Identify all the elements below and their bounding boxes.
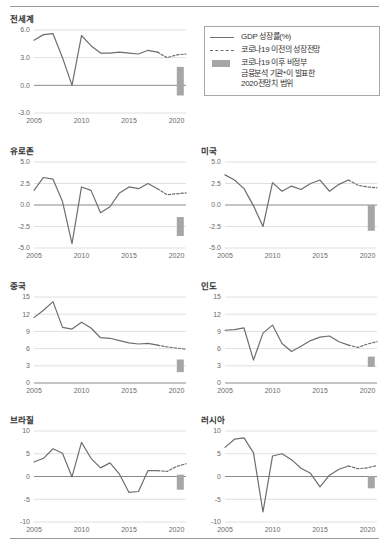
x-axis-tick-label: 2010 bbox=[74, 526, 90, 533]
y-axis-tick-label: 0 bbox=[26, 473, 30, 480]
forecast-line bbox=[158, 52, 187, 58]
y-axis-tick-label: 3 bbox=[26, 362, 30, 369]
chart-title: 인도 bbox=[201, 281, 381, 291]
x-axis-tick-label: 2015 bbox=[312, 387, 328, 394]
chart-panel-world: 전세계 6.03.00.0-3.02005201020152020 bbox=[8, 14, 190, 126]
x-axis-tick-label: 2005 bbox=[217, 526, 233, 533]
gdp-growth-line bbox=[225, 325, 349, 360]
x-axis-tick-label: 2020 bbox=[360, 252, 376, 259]
x-axis-tick-label: 2020 bbox=[169, 526, 185, 533]
forecast-range-bar bbox=[368, 476, 375, 488]
chart-svg: 151296302005201020152020 bbox=[199, 293, 381, 396]
y-axis-tick-label: 15 bbox=[22, 293, 30, 300]
x-axis-tick-label: 2005 bbox=[26, 117, 42, 124]
forecast-line bbox=[349, 180, 378, 188]
y-axis-tick-label: 3.0 bbox=[20, 54, 30, 61]
chart-panel-china: 중국 151296302005201020152020 bbox=[8, 281, 190, 396]
x-axis-tick-label: 2020 bbox=[360, 387, 376, 394]
plot-area: 151296302005201020152020 bbox=[8, 293, 190, 396]
legend-item-forecast-range: 코로나19 이후 비정부 금융분석 기관*이 발표한 2020전망치 범위 bbox=[210, 58, 373, 90]
y-axis-tick-label: 3 bbox=[217, 362, 221, 369]
legend-label: GDP 성장률(%) bbox=[241, 32, 291, 43]
y-axis-tick-label: 5.0 bbox=[211, 158, 221, 165]
top-divider-rule bbox=[10, 6, 379, 7]
gdp-growth-line bbox=[34, 177, 158, 243]
gdp-growth-line bbox=[34, 302, 158, 346]
y-axis-tick-label: 5.0 bbox=[20, 158, 30, 165]
forecast-range-bar bbox=[177, 67, 184, 96]
chart-title: 러시아 bbox=[201, 415, 381, 425]
y-axis-tick-label: 12 bbox=[22, 311, 30, 318]
dashed-line-icon bbox=[210, 45, 236, 56]
chart-title: 유로존 bbox=[10, 146, 190, 156]
y-axis-tick-label: -10 bbox=[20, 518, 30, 525]
forecast-range-bar bbox=[177, 475, 184, 490]
solid-line-icon bbox=[210, 32, 236, 43]
legend-item-pre-covid-forecast: 코로나19 이전의 성장전망 bbox=[210, 45, 373, 56]
x-axis-tick-label: 2020 bbox=[169, 117, 185, 124]
y-axis-tick-label: -5 bbox=[215, 496, 221, 503]
y-axis-tick-label: -5.0 bbox=[209, 244, 221, 251]
x-axis-tick-label: 2005 bbox=[217, 387, 233, 394]
chart-svg: 1050-5-102005201020152020 bbox=[199, 427, 381, 535]
y-axis-tick-label: 10 bbox=[213, 427, 221, 434]
y-axis-tick-label: 9 bbox=[217, 328, 221, 335]
y-axis-tick-label: 12 bbox=[213, 311, 221, 318]
bottom-divider-rule bbox=[10, 538, 379, 539]
legend-item-gdp-growth: GDP 성장률(%) bbox=[210, 32, 373, 43]
y-axis-tick-label: 0 bbox=[217, 473, 221, 480]
x-axis-tick-label: 2020 bbox=[169, 387, 185, 394]
gdp-growth-line bbox=[225, 438, 349, 512]
gdp-growth-line bbox=[225, 175, 349, 227]
x-axis-tick-label: 2005 bbox=[26, 387, 42, 394]
y-axis-tick-label: 0 bbox=[217, 379, 221, 386]
plot-area: 151296302005201020152020 bbox=[199, 293, 381, 396]
y-axis-tick-label: 6 bbox=[217, 345, 221, 352]
y-axis-tick-label: -5 bbox=[24, 496, 30, 503]
legend-label: 코로나19 이후 비정부 금융분석 기관*이 발표한 2020전망치 범위 bbox=[241, 58, 315, 90]
y-axis-tick-label: 0.0 bbox=[20, 201, 30, 208]
x-axis-tick-label: 2015 bbox=[121, 117, 137, 124]
forecast-range-bar bbox=[368, 205, 375, 231]
x-axis-tick-label: 2010 bbox=[265, 387, 281, 394]
x-axis-tick-label: 2010 bbox=[74, 117, 90, 124]
chart-legend: GDP 성장률(%) 코로나19 이전의 성장전망 코로나19 이후 비정부 금… bbox=[204, 26, 380, 96]
x-axis-tick-label: 2010 bbox=[265, 526, 281, 533]
x-axis-tick-label: 2005 bbox=[26, 526, 42, 533]
y-axis-tick-label: -5.0 bbox=[18, 244, 30, 251]
chart-svg: 5.02.50.0-2.5-5.02005201020152020 bbox=[199, 158, 381, 261]
y-axis-tick-label: 2.5 bbox=[211, 180, 221, 187]
y-axis-tick-label: 9 bbox=[26, 328, 30, 335]
x-axis-tick-label: 2020 bbox=[360, 526, 376, 533]
chart-title: 중국 bbox=[10, 281, 190, 291]
chart-svg: 6.03.00.0-3.02005201020152020 bbox=[8, 26, 190, 126]
chart-panel-russia: 러시아 1050-5-102005201020152020 bbox=[199, 415, 381, 535]
gdp-growth-line bbox=[34, 34, 158, 86]
x-axis-tick-label: 2015 bbox=[312, 252, 328, 259]
gdp-growth-line bbox=[34, 442, 158, 492]
legend-label: 코로나19 이전의 성장전망 bbox=[241, 45, 320, 56]
chart-svg: 151296302005201020152020 bbox=[8, 293, 190, 396]
chart-panel-eurozone: 유로존 5.02.50.0-2.5-5.02005201020152020 bbox=[8, 146, 190, 261]
plot-area: 1050-5-102005201020152020 bbox=[199, 427, 381, 535]
y-axis-tick-label: 0.0 bbox=[20, 82, 30, 89]
infographic-page: 전세계 6.03.00.0-3.02005201020152020 GDP 성장… bbox=[0, 0, 389, 550]
chart-title: 전세계 bbox=[10, 14, 190, 24]
chart-title: 브라질 bbox=[10, 415, 190, 425]
plot-area: 6.03.00.0-3.02005201020152020 bbox=[8, 26, 190, 126]
y-axis-tick-label: 10 bbox=[22, 427, 30, 434]
forecast-line bbox=[158, 189, 187, 195]
plot-area: 5.02.50.0-2.5-5.02005201020152020 bbox=[199, 158, 381, 261]
y-axis-tick-label: -3.0 bbox=[18, 109, 30, 116]
y-axis-tick-label: -10 bbox=[211, 518, 221, 525]
x-axis-tick-label: 2015 bbox=[121, 387, 137, 394]
y-axis-tick-label: 2.5 bbox=[20, 180, 30, 187]
forecast-range-bar bbox=[177, 217, 184, 236]
x-axis-tick-label: 2010 bbox=[265, 252, 281, 259]
x-axis-tick-label: 2010 bbox=[74, 252, 90, 259]
y-axis-tick-label: 6.0 bbox=[20, 26, 30, 33]
forecast-line bbox=[158, 464, 187, 472]
forecast-range-bar bbox=[177, 359, 184, 372]
x-axis-tick-label: 2015 bbox=[312, 526, 328, 533]
x-axis-tick-label: 2010 bbox=[74, 387, 90, 394]
